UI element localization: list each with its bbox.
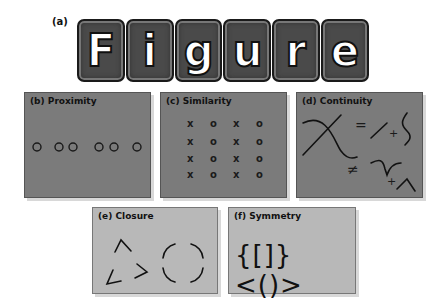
symmetry-glyphs: {[]}<()>: [235, 240, 355, 299]
logo-block-i: i: [126, 19, 174, 82]
grid-cell: x: [233, 153, 239, 164]
panel-title: (f) Symmetry: [234, 211, 301, 221]
logo-block-r: r: [272, 19, 320, 82]
plus-sign: +: [389, 127, 398, 140]
grid-cell: o: [210, 118, 217, 129]
grid-cell: o: [256, 169, 263, 180]
grid-cell: x: [233, 136, 239, 147]
grid-cell: o: [256, 136, 263, 147]
grid-cell: o: [210, 136, 217, 147]
figure-word-logo: F i g u r e: [77, 19, 369, 82]
grid-cell: o: [210, 169, 217, 180]
label-a: (a): [52, 16, 68, 27]
grid-cell: x: [187, 118, 193, 129]
panel-closure: (e) Closure: [92, 207, 218, 294]
grid-cell: x: [233, 169, 239, 180]
not-equals-sign: ≠: [347, 161, 359, 177]
logo-letter: g: [184, 29, 214, 73]
logo-letter: r: [286, 29, 307, 73]
grid-cell: o: [256, 118, 263, 129]
grid-cell: x: [187, 169, 193, 180]
logo-letter: i: [143, 29, 157, 73]
logo-letter: F: [87, 29, 116, 73]
grid-cell: x: [233, 118, 239, 129]
panel-proximity: (b) Proximity: [24, 92, 151, 198]
continuity-curves-icon: [297, 93, 422, 197]
panel-continuity: (d) Continuity = + ≠ +: [296, 92, 423, 198]
panel-similarity: (c) Similarity x o x o x o x o x o x o x…: [160, 92, 287, 198]
grid-cell: o: [256, 153, 263, 164]
panel-title: (c) Similarity: [166, 96, 232, 106]
grid-cell: x: [187, 153, 193, 164]
logo-block-u: u: [223, 19, 271, 82]
logo-block-g: g: [175, 19, 223, 82]
equals-sign: =: [355, 117, 367, 133]
plus-sign: +: [387, 175, 396, 188]
logo-block-f: F: [77, 19, 125, 82]
grid-cell: x: [187, 136, 193, 147]
panel-symmetry: (f) Symmetry {[]}<()>: [228, 207, 356, 294]
grid-cell: o: [210, 153, 217, 164]
logo-block-e: e: [321, 19, 369, 82]
proximity-circles-icon: [25, 93, 150, 197]
logo-letter: e: [331, 29, 359, 73]
logo-letter: u: [233, 29, 263, 73]
closure-shapes-icon: [93, 208, 217, 293]
